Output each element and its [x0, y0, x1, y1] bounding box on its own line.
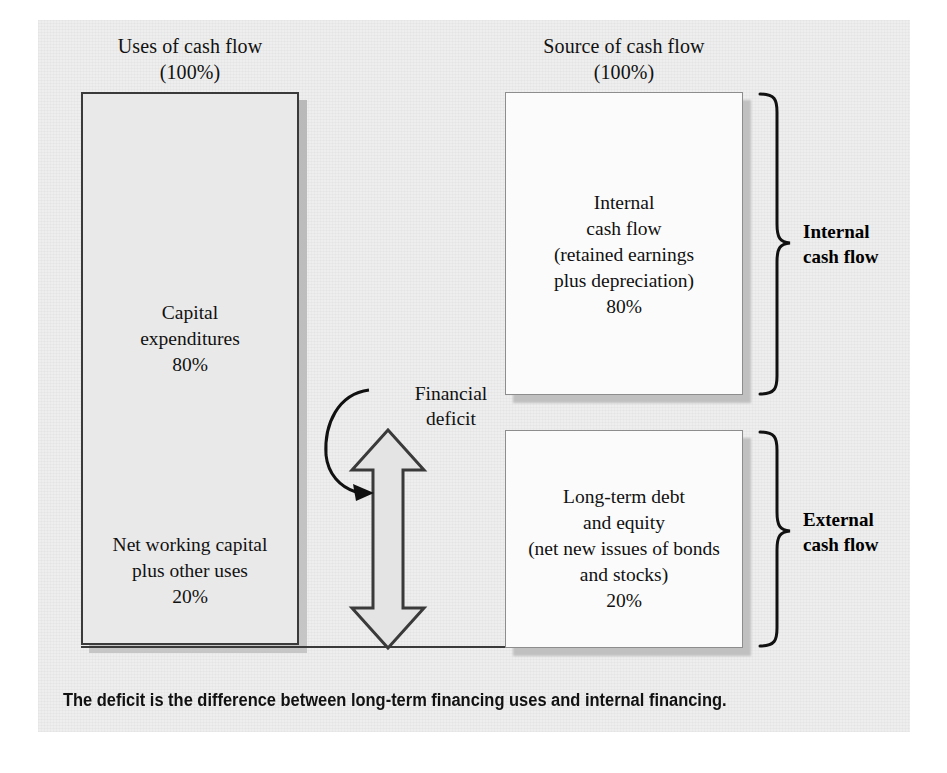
bracket-internal-line1: Internal: [803, 220, 878, 245]
bracket-label-internal-cash-flow: Internal cash flow: [803, 220, 878, 269]
bracket-internal-line2: cash flow: [803, 245, 878, 270]
financial-deficit-line2: deficit: [371, 406, 531, 431]
internal-cash-flow-brace: [760, 94, 790, 394]
bracket-label-external-cash-flow: External cash flow: [803, 508, 878, 557]
financial-deficit-double-arrow: [352, 430, 424, 648]
bracket-external-line2: cash flow: [803, 533, 878, 558]
financial-deficit-line1: Financial: [371, 381, 531, 406]
bracket-external-line1: External: [803, 508, 878, 533]
external-cash-flow-brace: [760, 432, 790, 646]
financial-deficit-pointer-arrow: [326, 390, 374, 501]
figure-root: Uses of cash flow (100%) Source of cash …: [0, 0, 947, 773]
financial-deficit-label: Financial deficit: [371, 381, 531, 432]
figure-caption: The deficit is the difference between lo…: [63, 690, 834, 711]
